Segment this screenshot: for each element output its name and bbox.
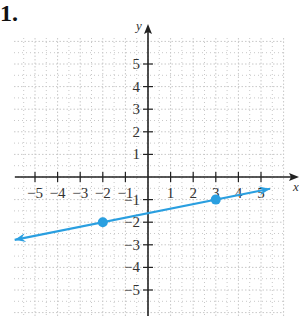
y-tick-label: −3 <box>124 237 140 253</box>
y-tick-label: 1 <box>133 146 141 162</box>
y-tick-label: −4 <box>124 259 140 275</box>
data-point <box>98 217 108 227</box>
y-tick-label: −1 <box>124 192 140 208</box>
x-tick-label: 4 <box>235 185 243 201</box>
x-tick-label: −2 <box>95 185 111 201</box>
x-tick-label: 1 <box>167 185 175 201</box>
y-tick-label: 3 <box>133 101 141 117</box>
x-tick-label: −5 <box>27 185 43 201</box>
y-tick-label: 5 <box>133 56 141 72</box>
x-tick-label: −4 <box>50 185 66 201</box>
x-tick-label: 2 <box>189 185 197 201</box>
x-tick-label: −3 <box>72 185 88 201</box>
y-tick-label: −5 <box>124 282 140 298</box>
data-point <box>211 195 221 205</box>
x-axis-label: x <box>292 179 299 194</box>
y-axis-label: y <box>134 18 142 33</box>
y-tick-label: 2 <box>133 124 141 140</box>
coordinate-plane: yx −5−4−3−2−112345−5−4−3−2−112345 <box>0 0 299 318</box>
y-tick-label: 4 <box>133 79 141 95</box>
